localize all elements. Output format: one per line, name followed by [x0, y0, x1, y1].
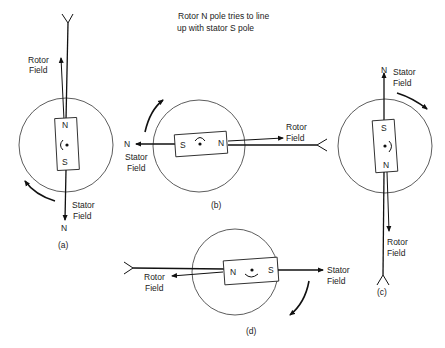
- rotation-arrow-icon: [145, 100, 163, 132]
- rotor-field-label: Rotor: [144, 272, 165, 282]
- panel-c: N Stator Field S N Rotor Field (c): [338, 65, 432, 297]
- stator-pole-label: N: [381, 65, 387, 75]
- stepper-motor-diagram: Rotor N pole tries to line up with stato…: [0, 0, 445, 348]
- rotor-field-label: Field: [286, 133, 305, 143]
- rotor-axis-line: [383, 172, 384, 275]
- field-tail-icon: [317, 139, 327, 151]
- pivot-dot: [383, 144, 386, 147]
- panel-caption: (b): [211, 200, 222, 210]
- field-tail-icon: [377, 275, 389, 285]
- rotor-field-arrow: [172, 272, 223, 276]
- field-tail-icon: [62, 14, 73, 23]
- panel-caption: (d): [246, 326, 257, 336]
- rotor-pole-s: S: [381, 123, 387, 133]
- rotor-axis-line: [133, 268, 225, 269]
- stator-field-arrow: [65, 170, 66, 220]
- rotor-field-arrow: [61, 58, 64, 120]
- stator-field-label: Stator: [327, 265, 350, 275]
- panel-d: Rotor Field N S Stator Field (d): [124, 229, 350, 336]
- rotor-pole-s: S: [62, 157, 68, 167]
- rotor-pole-n: N: [383, 160, 389, 170]
- stator-pole-label: N: [61, 223, 67, 233]
- rotor-pole-s: S: [268, 265, 274, 275]
- rotor-field-arrow: [228, 138, 283, 141]
- title-line-1: Rotor N pole tries to line: [178, 11, 269, 21]
- rotor-field-label: Rotor: [28, 55, 49, 65]
- pivot-dot: [65, 143, 68, 146]
- stator-field-label: Stator: [72, 200, 95, 210]
- stator-pole-label: N: [124, 139, 130, 149]
- rotor-pole-n: N: [218, 138, 224, 148]
- rotor-field-arrow: [387, 172, 389, 231]
- rotor-field-label: Rotor: [387, 237, 408, 247]
- rotor-field-label: Field: [387, 248, 406, 258]
- panel-caption: (c): [377, 287, 387, 297]
- panel-b: N Stator Field S N Rotor Field (b): [124, 100, 327, 210]
- panel-a: Rotor Field N S Stator Field N (a): [19, 14, 113, 250]
- rotor-axis-line: [66, 23, 68, 120]
- panel-caption: (a): [58, 240, 69, 250]
- stator-field-label: Field: [73, 211, 92, 221]
- stator-field-label: Field: [393, 78, 412, 88]
- pivot-dot: [250, 268, 253, 271]
- rotor-pole-n: N: [62, 120, 68, 130]
- rotation-arrow-icon: [397, 93, 427, 109]
- rotation-arrow-icon: [290, 281, 309, 315]
- stator-field-label: Field: [127, 163, 146, 173]
- rotor-field-label: Field: [145, 283, 164, 293]
- rotor-field-label: Rotor: [286, 122, 307, 132]
- stator-field-label: Stator: [125, 152, 148, 162]
- pivot-dot: [198, 142, 201, 145]
- rotor-field-label: Field: [29, 65, 48, 75]
- title-line-2: up with stator S pole: [177, 23, 254, 33]
- field-tail-icon: [124, 262, 133, 274]
- rotor-pole-s: S: [180, 140, 186, 150]
- rotor-pole-n: N: [230, 267, 236, 277]
- stator-field-label: Stator: [393, 67, 416, 77]
- stator-field-label: Field: [327, 276, 346, 286]
